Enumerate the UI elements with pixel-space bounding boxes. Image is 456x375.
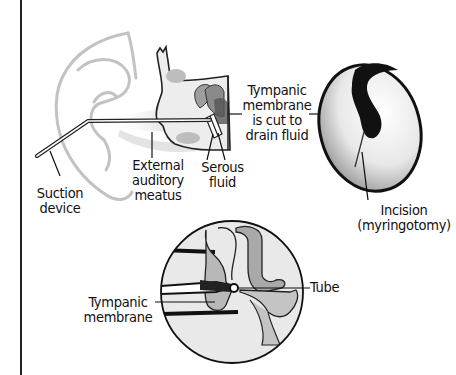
label-tube: Tube <box>310 280 346 295</box>
label-serous-fluid: Serous fluid <box>195 160 250 190</box>
label-incision-myringotomy: Incision (myringotomy) <box>352 203 456 233</box>
label-tympanic-membrane-cut: Tympanic membrane is cut to drain fluid <box>236 83 318 143</box>
label-suction-device: Suction device <box>30 186 90 216</box>
eardrum-view <box>305 53 435 203</box>
ear-tube-inset <box>155 221 310 363</box>
label-tympanic-membrane: Tympanic membrane <box>82 295 154 325</box>
label-external-auditory-meatus: External auditory meatus <box>125 158 191 203</box>
